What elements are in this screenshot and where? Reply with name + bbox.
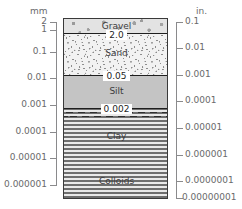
left-tick-label-0-01mm: 0.01 (0, 73, 47, 82)
right-tick-label-0-0000001in: 0.0000001 (185, 176, 234, 185)
right-tick-4 (176, 128, 183, 129)
right-tick-3 (176, 101, 183, 102)
right-tick-0 (176, 22, 183, 23)
right-tick-label-0-001in: 0.001 (185, 70, 211, 79)
particle-size-column: Gravel Sand Silt Clay Colloids 2.0 0.05 … (63, 18, 168, 199)
left-tick-label-0-000001mm: 0.000001 (0, 180, 47, 189)
left-axis-unit-label: mm (30, 6, 48, 16)
boundary-label-2-0: 2.0 (64, 30, 168, 40)
right-tick-5 (176, 155, 183, 156)
band-label-clay: Clay (64, 131, 168, 141)
left-tick-label-0-1mm: 0.1 (0, 47, 47, 56)
particle-size-chart: mm in. 2 1 0.1 0.01 0.001 0.0001 0.00001… (0, 0, 242, 209)
right-tick-1 (176, 48, 183, 49)
band-label-sand: Sand (64, 48, 168, 58)
left-tick-5 (50, 132, 57, 133)
left-tick-3 (50, 78, 57, 79)
boundary-label-0-002: 0.002 (64, 104, 168, 114)
right-tick-label-0-1in: 0.1 (185, 17, 199, 26)
right-tick-6 (176, 181, 183, 182)
band-label-colloids: Colloids (64, 176, 168, 186)
left-tick-label-1mm: 1 (0, 25, 47, 34)
left-tick-0 (50, 22, 57, 23)
right-tick-label-0-00000001in: 0.00000001 (182, 193, 236, 202)
left-tick-4 (50, 105, 57, 106)
right-tick-label-0-000001in: 0.000001 (185, 150, 228, 159)
left-tick-label-0-0001mm: 0.0001 (0, 127, 47, 136)
left-tick-6 (50, 158, 57, 159)
left-tick-2 (50, 52, 57, 53)
left-tick-label-0-001mm: 0.001 (0, 100, 47, 109)
left-tick-7 (50, 185, 57, 186)
left-tick-1 (50, 30, 57, 31)
right-tick-label-0-00001in: 0.00001 (185, 123, 222, 132)
right-tick-label-0-0001in: 0.0001 (185, 96, 217, 105)
right-tick-label-0-01in: 0.01 (185, 43, 205, 52)
boundary-label-0-05: 0.05 (64, 71, 168, 81)
left-axis-line (56, 22, 57, 186)
right-axis-unit-label: in. (196, 6, 207, 16)
clay-dash-2 (64, 116, 168, 117)
left-tick-label-0-00001mm: 0.00001 (0, 153, 47, 162)
right-tick-2 (176, 75, 183, 76)
band-label-silt: Silt (64, 86, 168, 96)
